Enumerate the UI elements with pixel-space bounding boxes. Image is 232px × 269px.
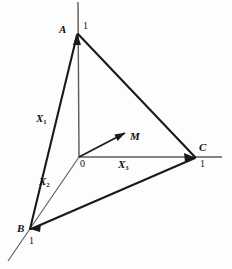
- vertex-label-a: A: [59, 24, 66, 35]
- tick-label-x3-one: 1: [200, 159, 205, 169]
- axis-line-x1: [78, 2, 79, 157]
- axis-label-x1: X1: [36, 113, 47, 124]
- tick-label-x2-one: 1: [29, 236, 34, 246]
- axis-label-x2: X2: [39, 176, 50, 187]
- vertex-label-c: C: [199, 142, 206, 153]
- origin-label: 0: [80, 159, 85, 169]
- axis-label-x3-sub: 3: [125, 164, 128, 171]
- edge-bc: [31, 158, 195, 229]
- tick-label-x1-one: 1: [83, 21, 88, 31]
- simplex-figure: A 1 B 1 C 1 0 X1 X2 X3 M: [0, 0, 232, 269]
- axis-label-x1-sub: 1: [43, 118, 46, 125]
- axis-label-x3: X3: [118, 159, 129, 170]
- vector-m-line: [79, 133, 125, 157]
- axis-label-x2-sub: 2: [46, 181, 49, 188]
- edge-ab: [30, 35, 77, 229]
- vertex-label-b: B: [17, 223, 24, 234]
- figure-canvas: [0, 0, 232, 269]
- vector-label-m: M: [130, 131, 140, 142]
